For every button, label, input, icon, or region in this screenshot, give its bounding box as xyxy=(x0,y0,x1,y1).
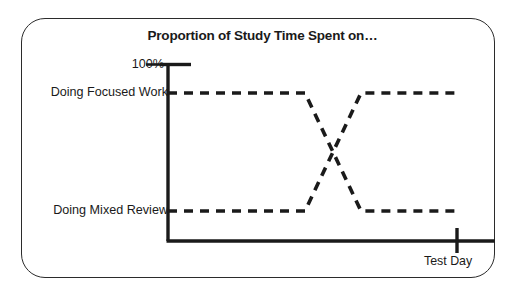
series-line-focused-work xyxy=(168,93,455,211)
series-line-mixed-review xyxy=(168,93,455,211)
figure-container: Proportion of Study Time Spent on… 100% … xyxy=(0,0,525,293)
plot-area xyxy=(0,0,525,293)
